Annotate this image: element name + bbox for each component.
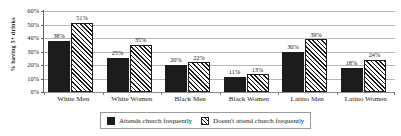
y-tick-mark [41,52,44,53]
legend-swatch-icon [107,117,115,125]
y-tick-mark [41,11,44,12]
bar-value-label: 39% [301,32,331,38]
bar-value-label: 30% [278,44,308,50]
bar-group: 18%24% [337,11,396,92]
bar-value-label: 38% [44,33,74,39]
legend-label: Doesn't attend church frequently [213,117,304,125]
category-label: White Women [103,95,162,103]
bar-chart: % having 5+ drinks 38%51%25%35%20%22%11%… [0,0,401,136]
y-tick-label: 30% [15,49,39,55]
y-tick-mark [41,79,44,80]
y-tick-label: 40% [15,35,39,41]
bar [188,62,210,92]
bar-value-label: 25% [103,50,133,56]
bar-value-label: 22% [184,55,214,61]
bar-group: 30%39% [278,11,337,92]
legend-swatch-icon [201,117,209,125]
y-tick-mark [41,92,44,93]
bar-group: 20%22% [161,11,220,92]
bar-value-label: 18% [337,60,367,66]
bar [71,23,93,92]
category-label: White Men [44,95,103,103]
y-tick-mark [41,38,44,39]
y-tick-mark [41,25,44,26]
bar [305,39,327,92]
category-label: Latino Men [278,95,337,103]
y-tick-label: 0% [15,89,39,95]
y-tick-mark [41,65,44,66]
y-tick-label: 60% [15,8,39,14]
bar-group: 11%13% [220,11,279,92]
y-tick-label: 20% [15,62,39,68]
bar [364,60,386,92]
legend-label: Attends church frequently [119,117,192,125]
chart-legend: Attends church frequentlyDoesn't attend … [100,112,311,129]
bar-group: 25%35% [103,11,162,92]
y-tick-label: 50% [15,22,39,28]
plot-area: 38%51%25%35%20%22%11%13%30%39%18%24% [44,11,395,92]
bar [341,68,363,92]
bar-value-label: 35% [126,37,156,43]
bar [224,77,246,92]
legend-entry: Attends church frequently [107,117,192,125]
bar [48,41,70,92]
bar [247,74,269,92]
bar [282,52,304,93]
category-label: Latino Women [337,95,396,103]
bar-value-label: 13% [243,67,273,73]
bar-value-label: 24% [360,52,390,58]
bar [165,65,187,92]
bar-value-label: 51% [67,15,97,21]
y-tick-label: 10% [15,76,39,82]
legend-entry: Doesn't attend church frequently [201,117,304,125]
category-label: Black Men [161,95,220,103]
bar [130,45,152,92]
category-axis: White MenWhite WomenBlack MenBlack Women… [44,95,395,107]
bar-group: 38%51% [44,11,103,92]
category-label: Black Women [220,95,279,103]
bar [107,58,129,92]
